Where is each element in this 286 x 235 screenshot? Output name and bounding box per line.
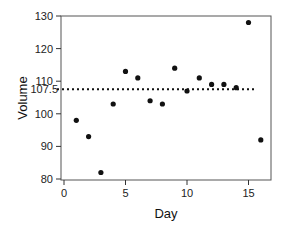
data-point — [86, 134, 91, 139]
scatter-chart: 8090100110120130107.5 051015 Day Volume — [0, 0, 286, 235]
data-point — [234, 85, 239, 90]
plot-border — [61, 16, 271, 180]
data-point — [148, 98, 153, 103]
plot-frame — [61, 16, 271, 180]
x-axis: 051015 — [61, 180, 255, 199]
y-axis-title: Volume — [15, 76, 30, 119]
y-tick-label: 80 — [41, 173, 53, 185]
x-axis-title: Day — [154, 206, 178, 221]
reference-value-label: 107.5 — [30, 83, 58, 95]
x-tick-label: 0 — [61, 187, 67, 199]
y-tick-label: 100 — [35, 108, 53, 120]
data-point — [197, 75, 202, 80]
data-point — [98, 170, 103, 175]
data-point — [258, 137, 263, 142]
x-tick-label: 15 — [242, 187, 254, 199]
data-point — [135, 75, 140, 80]
data-point — [209, 82, 214, 87]
data-point — [123, 69, 128, 74]
y-tick-label: 90 — [41, 140, 53, 152]
x-tick-label: 10 — [181, 187, 193, 199]
x-tick-label: 5 — [122, 187, 128, 199]
data-point — [221, 82, 226, 87]
data-point — [246, 20, 251, 25]
data-point — [184, 88, 189, 93]
y-tick-label: 120 — [35, 43, 53, 55]
y-axis: 8090100110120130107.5 — [30, 10, 61, 185]
y-tick-label: 130 — [35, 10, 53, 22]
data-point — [111, 101, 116, 106]
data-point — [172, 66, 177, 71]
data-points — [74, 20, 264, 175]
data-point — [160, 101, 165, 106]
data-point — [74, 118, 79, 123]
